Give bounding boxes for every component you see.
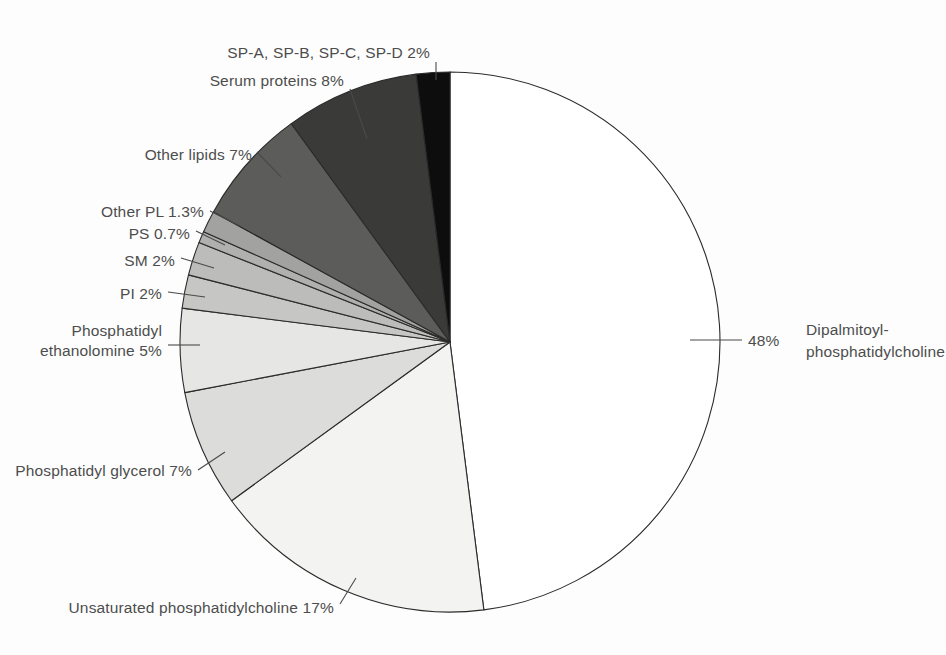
label-pg: Phosphatidyl glycerol 7% (15, 462, 192, 479)
label-pe-line2: ethanolomine 5% (40, 342, 162, 359)
pie-slices-group (180, 72, 720, 612)
label-ps: PS 0.7% (129, 225, 190, 242)
label-other-pl: Other PL 1.3% (101, 203, 204, 220)
pie-chart-figure: SP-A, SP-B, SP-C, SP-D 2% Serum proteins… (0, 0, 946, 655)
label-other-lipids: Other lipids 7% (145, 146, 252, 163)
label-dppc-percent: 48% (748, 332, 780, 349)
label-sm: SM 2% (124, 252, 175, 269)
pie-chart-svg: SP-A, SP-B, SP-C, SP-D 2% Serum proteins… (0, 0, 946, 655)
pie-slice (450, 72, 720, 610)
label-serum-proteins: Serum proteins 8% (210, 72, 344, 89)
label-dppc-line1: Dipalmitoyl- (806, 321, 889, 338)
label-sp-proteins: SP-A, SP-B, SP-C, SP-D 2% (227, 44, 430, 61)
label-dppc-line2: phosphatidylcholine (806, 343, 945, 360)
label-upc: Unsaturated phosphatidylcholine 17% (69, 599, 335, 616)
label-pi: PI 2% (120, 285, 162, 302)
label-pe-line1: Phosphatidyl (71, 322, 162, 339)
